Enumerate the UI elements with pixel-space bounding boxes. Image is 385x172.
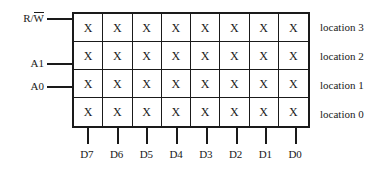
memory-cell: X (191, 14, 220, 42)
memory-cell: X (191, 70, 220, 98)
memory-cell: X (74, 14, 103, 42)
signal-label-a0: A0 (0, 80, 44, 92)
signal-label-text: A0 (31, 80, 44, 92)
memory-cell: X (279, 70, 308, 98)
memory-cell: X (74, 70, 103, 98)
memory-cell: X (74, 98, 103, 126)
memory-cell: X (133, 98, 162, 126)
data-line-label-d3: D3 (191, 148, 221, 160)
data-line-label-d0: D0 (280, 148, 310, 160)
data-line-tick-d0 (295, 128, 297, 144)
data-line-label-d4: D4 (161, 148, 191, 160)
memory-cell: X (279, 98, 308, 126)
memory-array-diagram: R/WA1A0 XXXXXXXXXXXXXXXXXXXXXXXXXXXXXXXX… (0, 0, 385, 172)
signal-label-text: A1 (31, 57, 44, 69)
signal-label-overbar-text: W (34, 12, 44, 24)
data-line-tick-d7 (87, 128, 89, 144)
data-line-label-d5: D5 (131, 148, 161, 160)
memory-cell: X (74, 42, 103, 70)
memory-cell: X (191, 98, 220, 126)
memory-cell: X (133, 14, 162, 42)
memory-cell: X (250, 70, 279, 98)
data-line-tick-d1 (265, 128, 267, 144)
data-line-label-d1: D1 (250, 148, 280, 160)
location-label-row-2: location 1 (320, 79, 364, 91)
memory-cell: X (162, 42, 191, 70)
lead-line-a0 (47, 86, 72, 88)
memory-cell: X (162, 98, 191, 126)
memory-cell: X (250, 14, 279, 42)
lead-line-rw (47, 18, 72, 20)
data-line-tick-d3 (206, 128, 208, 144)
memory-cell: X (250, 42, 279, 70)
memory-cell: X (191, 42, 220, 70)
memory-cell-grid: XXXXXXXXXXXXXXXXXXXXXXXXXXXXXXXX (72, 12, 310, 128)
data-line-tick-d4 (176, 128, 178, 144)
memory-cell: X (103, 70, 132, 98)
memory-cell: X (103, 42, 132, 70)
memory-cell: X (133, 70, 162, 98)
memory-cell: X (162, 70, 191, 98)
memory-cell: X (220, 14, 249, 42)
memory-cell: X (103, 98, 132, 126)
data-line-label-d2: D2 (221, 148, 251, 160)
signal-label-a1: A1 (0, 57, 44, 69)
data-line-label-d6: D6 (102, 148, 132, 160)
location-label-row-0: location 3 (320, 21, 364, 33)
signal-label-rw: R/W (0, 12, 44, 24)
memory-cell: X (279, 42, 308, 70)
location-label-row-3: location 0 (320, 108, 364, 120)
memory-cell: X (220, 70, 249, 98)
signal-label-text: R/ (23, 12, 33, 24)
data-line-label-d7: D7 (72, 148, 102, 160)
memory-cell: X (162, 14, 191, 42)
memory-cell: X (133, 42, 162, 70)
data-line-tick-d6 (117, 128, 119, 144)
memory-cell: X (220, 98, 249, 126)
memory-cell: X (250, 98, 279, 126)
lead-line-a1 (47, 63, 72, 65)
memory-cell: X (103, 14, 132, 42)
location-label-row-1: location 2 (320, 50, 364, 62)
data-line-tick-d2 (236, 128, 238, 144)
memory-cell: X (279, 14, 308, 42)
memory-cell: X (220, 42, 249, 70)
data-line-tick-d5 (146, 128, 148, 144)
